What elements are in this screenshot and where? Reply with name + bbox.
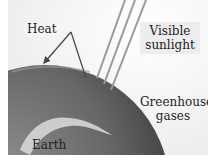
greenhouse-gases-label: Greenhouse gases	[140, 95, 206, 123]
earth-label: Earth	[32, 138, 66, 152]
visible-line1: Visible	[140, 24, 200, 38]
sunlight-rays	[97, 0, 146, 90]
greenhouse-line2: gases	[140, 109, 206, 123]
visible-line2: sunlight	[140, 38, 200, 52]
heat-label: Heat	[24, 22, 60, 36]
visible-sunlight-label: Visible sunlight	[140, 22, 200, 54]
greenhouse-line1: Greenhouse	[140, 95, 206, 109]
greenhouse-diagram: Heat Visible sunlight Greenhouse gases E…	[0, 0, 208, 165]
